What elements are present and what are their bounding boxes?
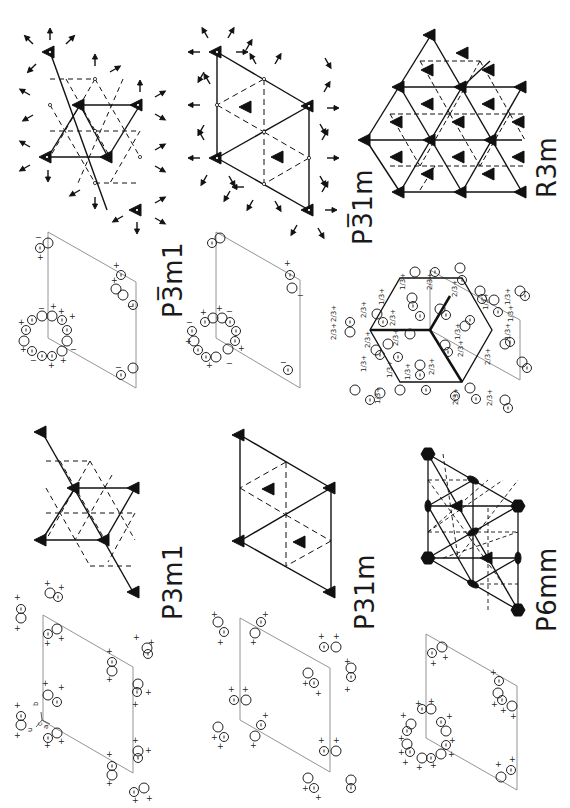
svg-text:+: + bbox=[14, 624, 21, 633]
svg-text:+: + bbox=[448, 750, 455, 759]
svg-text:+: + bbox=[58, 737, 65, 746]
svg-text:+: + bbox=[398, 748, 405, 757]
axis-label-a: a bbox=[42, 725, 50, 729]
svg-text:+: + bbox=[318, 632, 325, 641]
svg-text:1/3+: 1/3+ bbox=[504, 323, 512, 340]
axis-label-b: b bbox=[32, 701, 40, 706]
svg-text:+: + bbox=[333, 632, 340, 641]
svg-text:+: + bbox=[106, 647, 113, 656]
p-31m-symmetry-diagram bbox=[188, 26, 339, 239]
svg-text:+: + bbox=[111, 276, 118, 285]
svg-text:+: + bbox=[42, 679, 49, 688]
svg-text:+: + bbox=[509, 755, 516, 764]
axis-label-u: u bbox=[26, 728, 34, 732]
svg-text:+: + bbox=[238, 344, 245, 353]
svg-text:1/3+: 1/3+ bbox=[399, 273, 407, 290]
svg-text:−: − bbox=[30, 356, 37, 365]
svg-text:2/3+: 2/3+ bbox=[392, 329, 400, 346]
svg-text:+: + bbox=[415, 699, 422, 708]
svg-text:+: + bbox=[148, 638, 155, 647]
panel-label-p6mm: P6mm bbox=[532, 547, 562, 632]
svg-text:+: + bbox=[500, 706, 507, 715]
svg-text:−: − bbox=[35, 233, 42, 242]
svg-text:+: + bbox=[250, 741, 257, 750]
svg-text:+: + bbox=[14, 701, 21, 710]
svg-text:−: − bbox=[226, 359, 233, 368]
svg-text:1/3+: 1/3+ bbox=[374, 387, 382, 404]
svg-text:+: + bbox=[495, 760, 502, 769]
svg-text:+: + bbox=[217, 638, 224, 647]
svg-text:+: + bbox=[58, 307, 65, 316]
svg-text:+: + bbox=[132, 796, 139, 805]
p31m-symmetry-diagram bbox=[232, 429, 335, 598]
svg-text:2/3+: 2/3+ bbox=[428, 358, 436, 375]
svg-text:2/3+: 2/3+ bbox=[484, 348, 492, 365]
svg-text:−: − bbox=[127, 302, 134, 311]
svg-text:+: + bbox=[58, 683, 65, 692]
svg-text:+: + bbox=[20, 345, 27, 354]
svg-text:+: + bbox=[428, 697, 435, 706]
svg-text:+: + bbox=[113, 261, 120, 270]
svg-text:2/3+: 2/3+ bbox=[364, 331, 372, 348]
svg-text:2/3+: 2/3+ bbox=[457, 340, 465, 357]
svg-text:−: − bbox=[38, 304, 45, 313]
svg-text:+: + bbox=[228, 685, 235, 694]
svg-text:2/3+: 2/3+ bbox=[486, 389, 494, 406]
svg-text:1/3+: 1/3+ bbox=[504, 288, 512, 305]
svg-text:+: + bbox=[106, 750, 113, 759]
svg-text:+: + bbox=[318, 736, 325, 745]
svg-text:+: + bbox=[50, 302, 57, 311]
svg-text:+: + bbox=[242, 685, 249, 694]
svg-text:+: + bbox=[430, 761, 437, 770]
svg-text:+: + bbox=[14, 731, 21, 740]
svg-text:+: + bbox=[284, 259, 291, 268]
r3m-equipoint-diagram: 2/3+ 2/3+ 2/3+ 2/3+ 1/3+ 1/3+ 2/3+ 2/3+ … bbox=[330, 263, 532, 413]
svg-text:+: + bbox=[106, 779, 113, 788]
p3m1-equipoint-diagram: ++ ++ ++ ++ ++ ++ ++ ++ ++ ++ ++ ++ b u … bbox=[14, 579, 155, 805]
p6mm-symmetry-diagram bbox=[421, 448, 525, 616]
svg-text:−: − bbox=[280, 358, 287, 367]
svg-text:+: + bbox=[416, 763, 423, 772]
svg-text:+: + bbox=[344, 685, 351, 694]
svg-text:+: + bbox=[58, 634, 65, 643]
svg-text:−: − bbox=[115, 363, 122, 372]
svg-text:1/3+: 1/3+ bbox=[507, 305, 515, 322]
svg-text:+: + bbox=[430, 659, 437, 668]
svg-text:+: + bbox=[490, 668, 497, 677]
svg-text:+: + bbox=[402, 758, 409, 767]
svg-text:+: + bbox=[442, 653, 449, 662]
svg-text:+: + bbox=[48, 361, 55, 370]
svg-text:2/3+: 2/3+ bbox=[360, 301, 368, 318]
axis-labels: b u c a bbox=[26, 701, 50, 732]
svg-text:+: + bbox=[206, 361, 213, 370]
panel-label-p-31m: P3̅1m bbox=[348, 169, 378, 245]
svg-text:+: + bbox=[333, 736, 340, 745]
svg-text:1/3+: 1/3+ bbox=[360, 355, 368, 372]
panel-label-p31m: P31m bbox=[350, 554, 380, 630]
svg-text:1/3+: 1/3+ bbox=[454, 323, 462, 340]
svg-text:+: + bbox=[44, 579, 51, 588]
r3m-symmetry-diagram bbox=[358, 29, 526, 198]
svg-text:2/3+: 2/3+ bbox=[452, 388, 460, 405]
svg-text:+: + bbox=[146, 794, 153, 803]
svg-text:1/3+: 1/3+ bbox=[386, 361, 394, 378]
svg-text:+: + bbox=[60, 356, 67, 365]
panel-label-r3m: R3m bbox=[532, 137, 562, 198]
svg-text:1/3+: 1/3+ bbox=[378, 288, 386, 305]
svg-text:+: + bbox=[217, 742, 224, 751]
svg-text:2/3+: 2/3+ bbox=[426, 273, 434, 290]
svg-text:+: + bbox=[250, 638, 257, 647]
svg-text:+: + bbox=[37, 253, 44, 262]
svg-text:+: + bbox=[510, 712, 517, 721]
svg-text:+: + bbox=[145, 688, 152, 697]
svg-text:+: + bbox=[211, 733, 218, 742]
svg-text:+: + bbox=[211, 610, 218, 619]
p-31m-equipoint-diagram: ++− −++ +− +− − bbox=[185, 232, 304, 388]
svg-text:+: + bbox=[132, 700, 139, 709]
svg-text:+: + bbox=[145, 746, 152, 755]
svg-text:+: + bbox=[44, 639, 51, 648]
svg-text:1/3+: 1/3+ bbox=[482, 293, 490, 310]
svg-text:+: + bbox=[400, 711, 407, 720]
svg-text:+: + bbox=[69, 312, 76, 321]
svg-text:+: + bbox=[262, 610, 269, 619]
